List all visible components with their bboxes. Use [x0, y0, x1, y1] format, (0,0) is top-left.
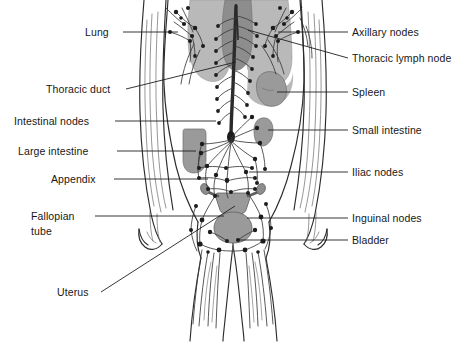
label-uterus: Uterus	[57, 286, 89, 299]
label-iliac-nodes: Iliac nodes	[352, 166, 403, 179]
bladder-organ	[214, 212, 252, 252]
label-thoracic-duct: Thoracic duct	[46, 83, 110, 96]
label-spleen: Spleen	[352, 86, 385, 99]
label-thoracic-lymph-node: Thoracic lymph node	[352, 52, 451, 65]
label-lung: Lung	[85, 26, 109, 39]
label-axillary-nodes: Axillary nodes	[352, 26, 419, 39]
label-fallopian-tube: Fallopian	[31, 210, 75, 223]
label-inguinal-nodes: Inguinal nodes	[352, 212, 422, 225]
label-large-intestine: Large intestine	[18, 145, 88, 158]
label-bladder: Bladder	[352, 234, 389, 247]
diagram-page: Lung Thoracic duct Intestinal nodes Larg…	[0, 0, 465, 364]
label-intestinal-nodes: Intestinal nodes	[14, 115, 89, 128]
small-intestine-organ	[254, 118, 273, 146]
label-small-intestine: Small intestine	[352, 124, 422, 137]
label-appendix: Appendix	[51, 173, 96, 186]
spleen-organ	[256, 72, 286, 107]
label-fallopian-tube-line2: tube	[31, 225, 52, 238]
uterus-organ	[199, 182, 267, 214]
